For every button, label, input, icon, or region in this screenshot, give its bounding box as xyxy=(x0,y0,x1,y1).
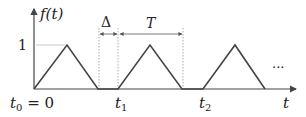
y-axis-label: f(t) xyxy=(39,5,63,23)
tick-t0: t0 = 0 xyxy=(10,94,54,113)
level-label: 1 xyxy=(18,37,27,53)
delta-label: Δ xyxy=(101,14,111,30)
triangle-pulse-diagram: f(t) 1 Δ T ··· t t0 = 0 t1 t2 xyxy=(0,0,306,117)
x-axis-label: t xyxy=(283,94,290,112)
tick-t2: t2 xyxy=(199,94,211,113)
ellipsis: ··· xyxy=(272,60,284,75)
tick-t1: t1 xyxy=(115,94,127,113)
period-label: T xyxy=(146,15,157,31)
triangle-waveform xyxy=(34,45,265,89)
